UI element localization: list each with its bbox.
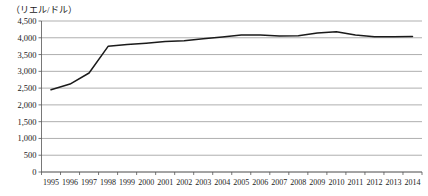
x-tick-label: 2001 xyxy=(157,178,173,187)
y-tick-label: 1,500 xyxy=(17,117,36,127)
x-tick-label: 2005 xyxy=(233,178,249,187)
y-tick-label: 2,000 xyxy=(17,100,36,110)
x-tick-label: 2011 xyxy=(348,178,364,187)
x-tick-label: 2008 xyxy=(290,178,306,187)
x-tick-label: 2009 xyxy=(309,178,325,187)
y-tick-label: 4,500 xyxy=(17,16,36,26)
x-axis-tick-labels: 1995199619971998199920002001200220032004… xyxy=(43,178,420,187)
x-tick-label: 2010 xyxy=(328,178,344,187)
x-tick-label: 2003 xyxy=(195,178,211,187)
gridlines xyxy=(42,21,423,172)
x-tick-label: 2014 xyxy=(404,178,420,187)
y-tick-label: 2,500 xyxy=(17,83,36,93)
exchange-rate-line-chart: （リエル/ドル） 4,5004,0003,5003,0002,5002,0001… xyxy=(0,0,428,196)
data-series xyxy=(51,32,412,90)
x-tick-label: 1998 xyxy=(100,178,116,187)
series-line-0 xyxy=(51,32,412,90)
x-tick-label: 2012 xyxy=(366,178,382,187)
x-axis-tickmarks xyxy=(42,172,423,175)
x-tick-label: 2000 xyxy=(138,178,154,187)
x-tick-label: 1997 xyxy=(81,178,97,187)
y-tick-label: 3,000 xyxy=(17,66,36,76)
y-tick-label: 3,500 xyxy=(17,50,36,60)
y-tick-label: 4,000 xyxy=(17,33,36,43)
x-tick-label: 2006 xyxy=(252,178,268,187)
y-tick-label: 0 xyxy=(32,167,36,177)
chart-svg: 4,5004,0003,5003,0002,5002,0001,5001,000… xyxy=(0,0,428,196)
chart-frame xyxy=(39,21,423,172)
plot-area: 4,5004,0003,5003,0002,5002,0001,5001,000… xyxy=(0,0,428,196)
x-tick-label: 2002 xyxy=(176,178,192,187)
x-tick-label: 1999 xyxy=(119,178,135,187)
x-tick-label: 1995 xyxy=(43,178,59,187)
y-axis-tick-labels: 4,5004,0003,5003,0002,5002,0001,5001,000… xyxy=(17,16,36,177)
y-tick-label: 500 xyxy=(24,150,37,160)
x-tick-label: 2007 xyxy=(271,178,287,187)
y-tick-label: 1,000 xyxy=(17,133,36,143)
x-tick-label: 2013 xyxy=(385,178,401,187)
x-tick-label: 1996 xyxy=(62,178,78,187)
x-tick-label: 2004 xyxy=(214,178,230,187)
